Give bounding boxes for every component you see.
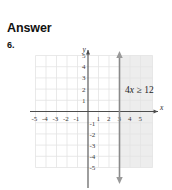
- inequality-relation: ≥: [136, 85, 141, 95]
- x-axis-arrow: [154, 109, 159, 113]
- inequality-variable: x: [129, 85, 135, 95]
- x-tick: -3: [53, 115, 59, 123]
- y-tick: -3: [90, 142, 96, 150]
- x-tick: 5: [139, 115, 143, 123]
- y-tick: 5: [82, 52, 86, 60]
- inequality-label: 4x≥12: [125, 85, 154, 95]
- y-tick: 3: [82, 74, 86, 82]
- boundary-arrow-up: [116, 51, 122, 58]
- x-axis-label: x: [159, 103, 164, 112]
- answer-heading: Answer: [7, 21, 52, 35]
- x-tick: -1: [74, 115, 80, 123]
- y-tick: 4: [82, 63, 86, 71]
- x-tick: 1: [97, 115, 101, 123]
- x-tick: -4: [42, 115, 48, 123]
- y-tick: 1: [82, 97, 86, 105]
- x-tick: 2: [107, 115, 111, 123]
- boundary-arrow-down: [116, 177, 122, 184]
- x-tick: -5: [32, 115, 38, 123]
- y-tick: -2: [90, 131, 96, 139]
- y-tick: -4: [90, 153, 96, 161]
- inequality-constant: 12: [144, 85, 154, 95]
- y-tick: -1: [90, 120, 96, 128]
- y-axis-arrow: [86, 50, 90, 55]
- x-tick: 4: [128, 115, 132, 123]
- coordinate-graph: y x -5 -4 -3 -2 -1 1 2 3 4 5 5 4 3 2 1 -…: [0, 48, 172, 190]
- y-tick: 2: [82, 86, 86, 94]
- x-tick: -2: [63, 115, 69, 123]
- y-tick: -5: [90, 164, 96, 172]
